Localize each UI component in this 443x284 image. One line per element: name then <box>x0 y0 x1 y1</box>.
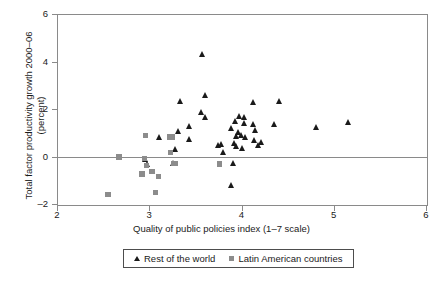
data-point-triangle <box>230 160 236 166</box>
data-point-triangle <box>250 121 256 127</box>
data-point-square <box>139 171 144 176</box>
data-point-triangle <box>199 51 205 57</box>
x-axis-tick-label: 6 <box>413 209 439 220</box>
data-point-triangle <box>177 98 183 104</box>
data-point-triangle <box>218 141 224 147</box>
data-point-square <box>143 133 148 138</box>
y-axis-tick <box>52 109 57 110</box>
y-axis-tick-label: 6 <box>22 8 48 19</box>
data-point-square <box>105 192 110 197</box>
data-point-triangle <box>236 113 242 119</box>
data-point-triangle <box>239 145 245 151</box>
y-axis-tick-label: 0 <box>22 151 48 162</box>
data-point-triangle <box>175 128 181 134</box>
data-point-triangle <box>241 120 247 126</box>
data-point-triangle <box>202 92 208 98</box>
triangle-marker-icon <box>134 256 140 261</box>
data-point-triangle <box>228 125 234 131</box>
data-point-square <box>167 134 172 139</box>
data-point-triangle <box>345 119 351 125</box>
x-axis-tick-label: 3 <box>136 209 162 220</box>
data-point-square <box>168 150 173 155</box>
data-point-triangle <box>220 149 226 155</box>
y-axis-title: Total factor productivity growth 2000–06… <box>23 16 46 216</box>
y-axis-tick <box>52 62 57 63</box>
data-point-triangle <box>228 182 234 188</box>
data-point-square <box>217 161 222 166</box>
y-axis-tick-label: 2 <box>22 103 48 114</box>
zero-reference-line <box>58 157 427 159</box>
y-axis-tick <box>52 204 57 205</box>
data-point-triangle <box>276 98 282 104</box>
data-point-triangle <box>144 161 150 167</box>
data-point-triangle <box>167 134 173 140</box>
x-axis-tick-label: 5 <box>321 209 347 220</box>
y-axis-tick <box>52 157 57 158</box>
legend-label: Latin American countries <box>238 253 342 264</box>
data-point-triangle <box>186 136 192 142</box>
data-point-triangle <box>255 142 261 148</box>
data-point-square <box>171 161 176 166</box>
data-point-square <box>156 174 161 179</box>
data-point-square <box>153 190 158 195</box>
data-point-triangle <box>172 146 178 152</box>
data-point-square <box>144 163 149 168</box>
y-axis-tick-label: 4 <box>22 56 48 67</box>
data-point-triangle <box>242 134 248 140</box>
x-axis-tick-label: 4 <box>229 209 255 220</box>
data-point-square <box>172 161 177 166</box>
data-point-triangle <box>250 99 256 105</box>
data-point-triangle <box>252 127 258 133</box>
data-point-triangle <box>241 114 247 120</box>
data-point-triangle <box>231 140 237 146</box>
data-point-triangle <box>233 133 239 139</box>
plot-area <box>57 14 428 206</box>
data-point-triangle <box>251 137 257 143</box>
square-marker-icon <box>229 256 234 261</box>
y-axis-tick <box>52 14 57 15</box>
data-point-triangle <box>313 124 319 130</box>
data-point-triangle <box>156 134 162 140</box>
data-point-triangle <box>170 160 176 166</box>
data-point-triangle <box>198 109 204 115</box>
data-point-square <box>170 134 175 139</box>
legend-item-latin-american-countries[interactable]: Latin American countries <box>229 253 342 264</box>
scatter-chart-figure: Total factor productivity growth 2000–06… <box>0 0 443 284</box>
data-point-triangle <box>258 139 264 145</box>
data-point-triangle <box>238 132 244 138</box>
legend-item-rest-of-the-world[interactable]: Rest of the world <box>134 253 215 264</box>
chart-legend: Rest of the world Latin American countri… <box>123 249 354 268</box>
data-point-triangle <box>271 121 277 127</box>
x-axis-title: Quality of public policies index (1–7 sc… <box>0 223 443 234</box>
data-point-triangle <box>186 123 192 129</box>
x-axis-tick-label: 2 <box>44 209 70 220</box>
data-point-triangle <box>202 114 208 120</box>
data-point-triangle <box>233 143 239 149</box>
data-point-square <box>149 169 154 174</box>
y-axis-tick-label: –2 <box>22 198 48 209</box>
data-point-triangle <box>215 142 221 148</box>
data-point-triangle <box>232 118 238 124</box>
legend-label: Rest of the world <box>144 253 215 264</box>
data-point-triangle <box>235 129 241 135</box>
